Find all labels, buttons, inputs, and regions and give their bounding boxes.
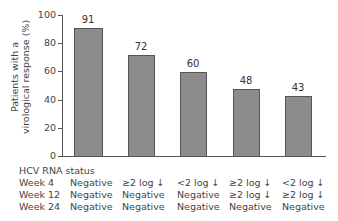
table-header: HCV RNA status [19,165,95,177]
y-tick [58,15,62,16]
cell: Negative [177,189,220,201]
bar-5 [285,96,312,157]
y-axis-label-line-2: virological response (%) [20,17,31,137]
cell: Negative [70,189,113,201]
cell: Negative [282,201,325,213]
bar-2 [128,55,155,157]
bar-value-label: 43 [278,82,318,93]
bar-value-label: 60 [173,58,213,69]
row-label-week12: Week 12 [19,189,60,201]
row-label-week24: Week 24 [19,201,60,213]
y-tick-label: 60 [36,65,56,76]
row-label-week4: Week 4 [19,177,54,189]
cell: ≥2 log ↓ [229,177,272,189]
cell: Negative [177,201,220,213]
y-tick-label: 20 [36,122,56,133]
y-tick-label: 40 [36,94,56,105]
cell: ≥2 log ↓ [122,177,165,189]
y-tick [58,128,62,129]
cell: <2 log ↓ [282,177,325,189]
bar-value-label: 72 [121,41,161,52]
bar-value-label: 48 [226,75,266,86]
bar-3 [180,72,207,157]
y-tick-label: 0 [36,150,56,161]
y-axis-label-line-1: Patients with a [9,17,20,137]
y-tick-label: 100 [30,9,56,20]
cell: ≥2 log ↓ [282,189,325,201]
cell: Negative [122,189,165,201]
y-tick [58,100,62,101]
cell: <2 log ↓ [177,177,220,189]
y-axis-label: Patients with a virological response (%) [9,17,39,137]
cell: Negative [229,201,272,213]
cell: ≥2 log ↓ [229,189,272,201]
y-tick [58,71,62,72]
y-tick-label: 80 [36,37,56,48]
bar-4 [233,89,260,157]
bar-1 [74,28,103,157]
y-tick [58,156,62,157]
y-axis [62,15,63,157]
bar-value-label: 91 [68,14,108,25]
cell: Negative [122,201,165,213]
cell: Negative [70,201,113,213]
cell: Negative [70,177,113,189]
y-tick [58,43,62,44]
